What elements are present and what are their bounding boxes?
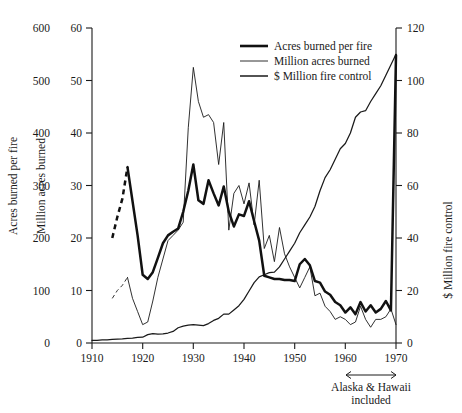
inner-left-tick-marks (86, 28, 92, 343)
outer-left-axis: 0 100 200 300 400 500 600 Acres burned p… (7, 22, 50, 349)
x-axis: 1910 1920 1930 1940 1950 1960 1970 (81, 343, 408, 364)
annotation-text-line1: Alaska & Hawaii (331, 381, 411, 393)
right-axis: 0 20 40 60 80 100 120 $ Million fire con… (396, 22, 454, 349)
legend-label-fire-control: $ Million fire control (274, 70, 371, 82)
data-series-group (92, 54, 396, 340)
annotation-text-line2: included (351, 394, 391, 406)
x-tick-label-1940: 1940 (233, 352, 256, 364)
x-tick-label-1930: 1930 (182, 352, 205, 364)
x-tick-label-1960: 1960 (334, 352, 357, 364)
right-axis-title: $ Million fire control (442, 201, 454, 298)
x-tick-label-1970: 1970 (385, 352, 408, 364)
series-line-fire-control (92, 54, 396, 340)
outer-left-tick-label-400: 400 (33, 127, 51, 139)
inner-left-tick-label-10: 10 (71, 285, 83, 297)
x-tick-label-1920: 1920 (131, 352, 154, 364)
legend-label-million-acres-burned: Million acres burned (274, 55, 370, 67)
inner-left-tick-label-40: 40 (71, 127, 83, 139)
outer-left-tick-label-500: 500 (33, 75, 51, 87)
inner-left-tick-label-0: 0 (76, 337, 82, 349)
right-tick-label-80: 80 (407, 127, 419, 139)
outer-left-tick-label-100: 100 (33, 285, 51, 297)
inner-left-tick-label-30: 30 (71, 180, 83, 192)
right-tick-label-0: 0 (407, 337, 413, 349)
outer-left-tick-label-0: 0 (44, 337, 50, 349)
inner-left-tick-label-60: 60 (71, 22, 83, 34)
right-tick-label-60: 60 (407, 180, 419, 192)
inner-left-tick-label-50: 50 (71, 75, 83, 87)
right-tick-label-40: 40 (407, 232, 419, 244)
x-tick-label-1950: 1950 (283, 352, 306, 364)
right-tick-label-120: 120 (407, 22, 425, 34)
right-axis-tick-marks (396, 28, 402, 343)
x-tick-label-1910: 1910 (81, 352, 104, 364)
series-line-acres-per-fire-estimated (112, 167, 127, 238)
right-tick-label-20: 20 (407, 285, 419, 297)
alaska-hawaii-annotation: Alaska & Hawaii included (331, 372, 411, 407)
outer-left-tick-label-600: 600 (33, 22, 51, 34)
right-tick-label-100: 100 (407, 75, 425, 87)
fire-statistics-line-chart: 0 10 20 30 40 50 60 Million acres burned… (0, 0, 462, 413)
outer-left-tick-label-200: 200 (33, 232, 51, 244)
legend-label-acres-per-fire: Acres burned per fire (274, 40, 372, 53)
legend: Acres burned per fire Million acres burn… (240, 40, 372, 82)
series-line-acres-burned-estimated (112, 277, 127, 298)
figure-container: 0 10 20 30 40 50 60 Million acres burned… (0, 0, 462, 413)
outer-left-tick-label-300: 300 (33, 180, 51, 192)
series-line-acres-burned (127, 67, 396, 327)
x-axis-tick-marks (92, 343, 396, 349)
outer-left-axis-title: Acres burned per fire (7, 137, 20, 235)
inner-left-tick-label-20: 20 (71, 232, 83, 244)
